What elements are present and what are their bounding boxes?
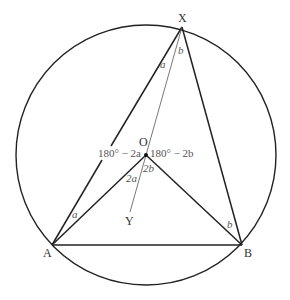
- label-y: Y: [125, 214, 134, 228]
- angle-o-lower-left: 2a: [126, 172, 138, 184]
- angle-b: b: [227, 218, 233, 230]
- segment-ax-lower: [52, 160, 102, 245]
- angle-o-lower-right: 2b: [143, 162, 155, 174]
- label-x: X: [178, 11, 187, 25]
- diagram-canvas: X A B O Y a b 180° − 2a 180° − 2b 2a 2b …: [0, 0, 290, 300]
- circle-theorem-diagram: X A B O Y a b 180° − 2a 180° − 2b 2a 2b …: [0, 0, 290, 300]
- label-a: A: [43, 246, 52, 260]
- center-point-o: [144, 153, 148, 157]
- angle-a: a: [72, 208, 78, 220]
- segment-ob: [146, 155, 242, 245]
- segment-ax-upper: [111, 27, 182, 146]
- angle-x-right: b: [178, 44, 184, 56]
- segment-xy: [130, 27, 182, 212]
- segment-ao: [52, 155, 146, 245]
- segment-xb: [182, 27, 242, 245]
- angle-x-left: a: [160, 58, 166, 70]
- angle-o-upper-left: 180° − 2a: [98, 147, 141, 159]
- label-b: B: [244, 246, 252, 260]
- angle-o-upper-right: 180° − 2b: [150, 147, 194, 159]
